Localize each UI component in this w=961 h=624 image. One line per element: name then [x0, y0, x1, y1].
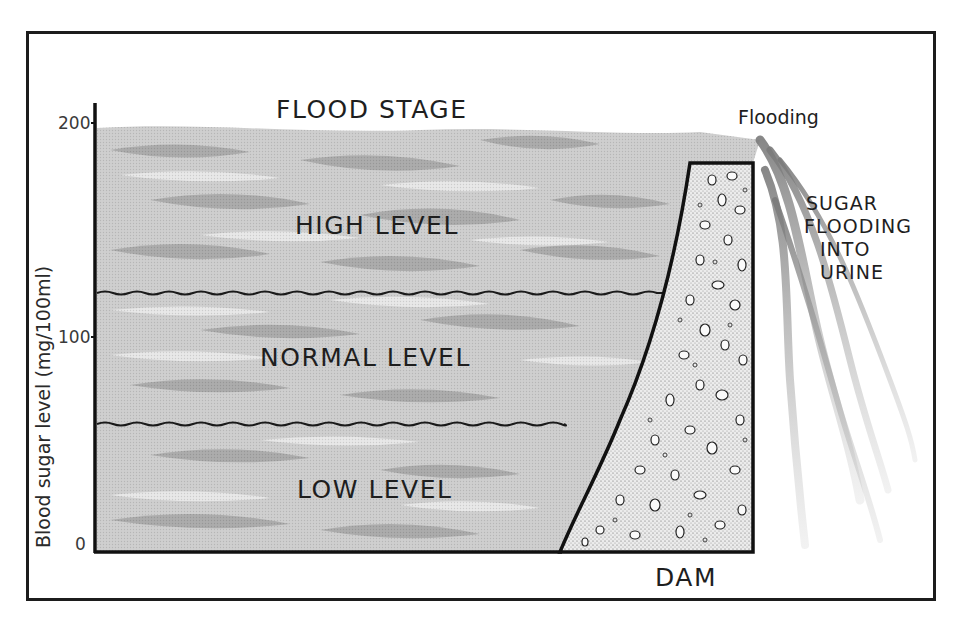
y-axis-label: Blood sugar level (mg/100ml)	[32, 266, 54, 548]
reservoir-illustration	[0, 0, 961, 624]
sugar-flooding-line-3: INTO	[820, 238, 912, 261]
flooding-label: Flooding	[738, 106, 819, 128]
low-level-label: LOW LEVEL	[297, 475, 452, 504]
sugar-flooding-line-4: URINE	[820, 261, 912, 284]
sugar-flooding-line-1: SUGAR	[806, 192, 912, 215]
normal-level-label: NORMAL LEVEL	[260, 343, 471, 372]
tick-100: 100	[58, 327, 90, 347]
high-level-label: HIGH LEVEL	[295, 211, 459, 240]
sugar-flooding-label: SUGAR FLOODING INTO URINE	[806, 192, 912, 284]
tick-0: 0	[75, 534, 86, 554]
tick-200: 200	[58, 113, 90, 133]
dam-label: DAM	[655, 563, 717, 592]
y-axis	[91, 103, 95, 553]
sugar-flooding-line-2: FLOODING	[804, 215, 912, 238]
flood-stage-label: FLOOD STAGE	[276, 95, 468, 124]
